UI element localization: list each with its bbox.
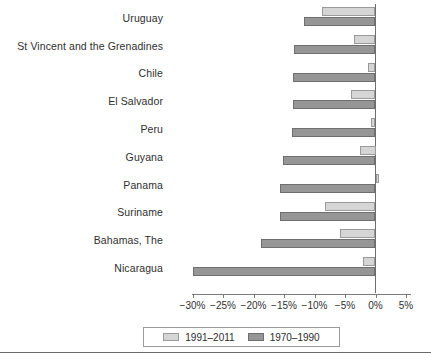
category-row: Nicaragua bbox=[0, 254, 431, 282]
bar-series-1 bbox=[283, 156, 375, 165]
legend-swatch-icon-series-1 bbox=[248, 333, 264, 341]
x-tick bbox=[406, 294, 407, 298]
legend-label-series-0: 1991–2011 bbox=[185, 332, 234, 343]
category-label: Guyana bbox=[126, 151, 163, 163]
bar-series-1 bbox=[293, 100, 375, 109]
legend-entry-series-0: 1991–2011 bbox=[163, 332, 234, 343]
bar-series-0 bbox=[376, 174, 379, 183]
x-tick-label: 5% bbox=[399, 300, 413, 311]
x-tick bbox=[284, 294, 285, 298]
bar-series-1 bbox=[280, 212, 375, 221]
x-tick-label: −20% bbox=[241, 300, 267, 311]
x-axis-line bbox=[192, 294, 411, 295]
category-label: Uruguay bbox=[123, 12, 163, 24]
category-row: Guyana bbox=[0, 143, 431, 171]
x-tick-label: −15% bbox=[271, 300, 297, 311]
x-tick-label: −10% bbox=[302, 300, 328, 311]
footer-divider bbox=[0, 352, 431, 353]
bar-series-1 bbox=[294, 45, 375, 54]
category-label: Chile bbox=[139, 67, 163, 79]
bar-series-0 bbox=[340, 229, 375, 238]
bar-series-1 bbox=[280, 184, 375, 193]
category-row: Uruguay bbox=[0, 4, 431, 32]
x-tick bbox=[345, 294, 346, 298]
category-row: Bahamas, The bbox=[0, 226, 431, 254]
x-tick bbox=[254, 294, 255, 298]
horizontal-bar-chart: UruguaySt Vincent and the GrenadinesChil… bbox=[0, 0, 431, 363]
x-tick bbox=[223, 294, 224, 298]
plot-area: UruguaySt Vincent and the GrenadinesChil… bbox=[0, 4, 431, 292]
category-row: Suriname bbox=[0, 199, 431, 227]
bar-series-0 bbox=[322, 7, 375, 16]
bar-series-1 bbox=[304, 17, 376, 26]
legend-swatch-icon-series-0 bbox=[163, 333, 179, 341]
x-tick bbox=[376, 294, 377, 298]
x-tick-label: −5% bbox=[335, 300, 355, 311]
x-tick-label: −30% bbox=[180, 300, 206, 311]
category-row: Chile bbox=[0, 60, 431, 88]
category-label: St Vincent and the Grenadines bbox=[17, 40, 163, 52]
bar-series-1 bbox=[292, 128, 376, 137]
bar-series-1 bbox=[193, 267, 375, 276]
bar-series-0 bbox=[371, 118, 376, 127]
bar-series-1 bbox=[293, 73, 376, 82]
category-label: Suriname bbox=[117, 206, 163, 218]
category-row: Panama bbox=[0, 171, 431, 199]
bar-series-0 bbox=[360, 146, 375, 155]
category-label: Nicaragua bbox=[114, 262, 163, 274]
x-tick bbox=[193, 294, 194, 298]
x-tick bbox=[315, 294, 316, 298]
x-tick-label: 0% bbox=[368, 300, 382, 311]
category-label: Bahamas, The bbox=[94, 234, 163, 246]
x-tick-label: −25% bbox=[210, 300, 236, 311]
legend-entry-series-1: 1970–1990 bbox=[248, 332, 320, 343]
category-label: Panama bbox=[123, 179, 163, 191]
bar-series-0 bbox=[363, 257, 375, 266]
category-label: Peru bbox=[140, 123, 163, 135]
chart-legend: 1991–2011 1970–1990 bbox=[143, 327, 340, 347]
bar-series-0 bbox=[325, 202, 375, 211]
bar-series-0 bbox=[354, 35, 376, 44]
bar-series-1 bbox=[261, 239, 375, 248]
legend-label-series-1: 1970–1990 bbox=[270, 332, 320, 343]
bar-series-0 bbox=[368, 63, 375, 72]
category-label: El Salvador bbox=[108, 95, 163, 107]
category-row: St Vincent and the Grenadines bbox=[0, 32, 431, 60]
category-row: Peru bbox=[0, 115, 431, 143]
bar-series-0 bbox=[351, 90, 375, 99]
category-row: El Salvador bbox=[0, 87, 431, 115]
